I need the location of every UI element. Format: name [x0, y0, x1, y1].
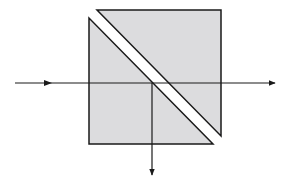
incident-arrow-icon	[44, 80, 52, 86]
beam-splitter-diagram	[0, 0, 286, 184]
